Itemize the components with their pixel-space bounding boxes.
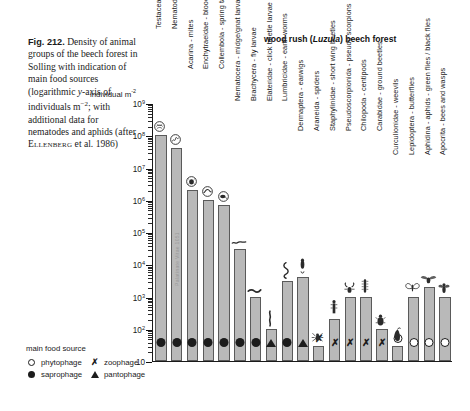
category-label: Nematodes - thread worms — [170, 0, 179, 29]
y-tick-minor — [148, 288, 152, 289]
click-beetle-larva-icon — [261, 309, 279, 327]
y-axis-title-text: individual m — [90, 90, 131, 99]
food-source-marker-saprophage — [188, 338, 197, 347]
food-source-marker-phytophage — [425, 338, 434, 347]
y-tick-minor — [148, 305, 152, 306]
y-tick-minor — [148, 141, 152, 142]
bar[interactable] — [345, 297, 356, 362]
y-tick-minor — [148, 301, 152, 302]
y-tick-minor — [148, 111, 152, 112]
y-tick-label: 103 — [133, 292, 145, 303]
food-source-marker-saprophage — [156, 338, 165, 347]
y-tick-minor — [148, 214, 152, 215]
y-tick-minor — [148, 320, 152, 321]
y-axis-title-exponent: -2 — [131, 88, 136, 94]
category-label: Curculionidae - weevils — [391, 79, 400, 155]
legend-row: saprophage pantophage — [26, 370, 152, 379]
y-tick-minor — [148, 250, 152, 251]
bar[interactable] — [155, 135, 166, 361]
food-source-marker-saprophage — [251, 338, 260, 347]
springtail-icon — [214, 185, 232, 203]
legend-item-pantophage: pantophage — [89, 370, 152, 379]
fly-larva-icon — [246, 277, 264, 295]
bar[interactable] — [360, 297, 371, 362]
y-tick-minor — [148, 234, 152, 235]
y-tick-minor — [148, 176, 152, 177]
chart-plot-area: wood rush (Luzula) beech forest individu… — [152, 104, 452, 362]
y-tick-minor — [148, 240, 152, 241]
y-tick-minor — [148, 270, 152, 271]
y-tick-minor — [148, 302, 152, 303]
figure-number: Fig. 212. — [28, 37, 65, 47]
category-label: Collembola - spring tails — [217, 0, 226, 69]
y-tick-label: 107 — [133, 163, 145, 174]
y-tick-minor — [148, 339, 152, 340]
y-tick-minor — [148, 331, 152, 332]
centipede-icon — [356, 277, 374, 295]
y-tick-minor — [148, 243, 152, 244]
y-tick-minor — [148, 191, 152, 192]
bar[interactable] — [424, 287, 435, 361]
y-tick-minor — [148, 282, 152, 283]
y-tick-minor — [148, 181, 152, 182]
legend-title: main food source — [26, 344, 152, 353]
y-tick-minor — [148, 218, 152, 219]
y-tick-label: 106 — [133, 195, 145, 206]
y-tick-minor — [148, 208, 152, 209]
y-tick-minor — [148, 202, 152, 203]
food-source-marker-saprophage — [220, 338, 229, 347]
earwig-icon — [293, 257, 311, 275]
y-tick-minor — [148, 109, 152, 110]
y-tick-minor — [148, 139, 152, 140]
bar[interactable]: Palatinate Vitae 1051 — [171, 148, 182, 361]
legend: main food source phytophage ✗ zoophage s… — [26, 344, 152, 382]
food-source-marker-zoophage: ✗ — [377, 338, 386, 347]
weevil-icon — [388, 326, 406, 344]
y-tick-minor — [148, 307, 152, 308]
food-source-marker-saprophage — [283, 338, 292, 347]
food-source-marker-saprophage — [172, 338, 181, 347]
y-tick-minor — [148, 143, 152, 144]
food-source-marker-pantophage — [266, 339, 276, 347]
bar[interactable] — [282, 281, 293, 361]
bar[interactable] — [187, 190, 198, 361]
y-tick-minor — [148, 149, 152, 150]
y-tick-minor — [148, 333, 152, 334]
y-tick-minor — [148, 268, 152, 269]
food-source-marker-pantophage — [298, 339, 308, 347]
y-tick-minor — [148, 256, 152, 257]
y-axis-title: individual m-2 — [90, 88, 136, 99]
category-label: Enchytraeidae - blood worms — [201, 0, 210, 69]
y-tick-label: 102 — [133, 324, 145, 335]
spider-icon — [309, 326, 327, 344]
bar[interactable] — [297, 277, 308, 361]
y-tick-minor — [148, 335, 152, 336]
y-tick-minor — [148, 105, 152, 106]
legend-label-zoophage: zoophage — [104, 358, 138, 367]
bar[interactable] — [250, 297, 261, 362]
bar[interactable] — [203, 200, 214, 361]
y-tick-minor — [148, 153, 152, 154]
food-source-marker-zoophage: ✗ — [346, 338, 355, 347]
bar[interactable] — [313, 346, 324, 361]
y-tick-minor — [148, 159, 152, 160]
category-label: Carabidae - ground beetles — [375, 41, 384, 131]
food-source-marker-zoophage: ✗ — [362, 338, 371, 347]
food-source-marker-phytophage — [441, 338, 450, 347]
y-tick-minor — [148, 178, 152, 179]
y-tick-minor — [148, 185, 152, 186]
y-tick-label: 108 — [133, 131, 145, 142]
category-label: Aphidina - aphids - green flies / black … — [423, 18, 432, 155]
wasp-icon — [435, 277, 453, 295]
category-label: Lumbricidae - earth worms — [280, 13, 289, 101]
food-source-marker-saprophage — [204, 338, 213, 347]
cross-icon: ✗ — [89, 358, 100, 367]
category-label: Elateridae - click beetle larvae — [265, 2, 274, 101]
category-label: Testacea — [154, 0, 163, 29]
bar[interactable] — [408, 297, 419, 362]
legend-row: phytophage ✗ zoophage — [26, 358, 152, 367]
legend-label-phytophage: phytophage — [41, 358, 82, 367]
category-label: Lepidoptera - butterflies — [407, 77, 416, 155]
bar[interactable] — [392, 346, 403, 361]
bar[interactable] — [439, 297, 450, 362]
